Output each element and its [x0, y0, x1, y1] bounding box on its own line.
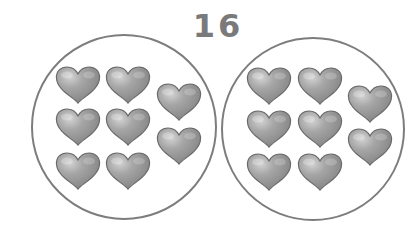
- heart-icon: [157, 128, 200, 164]
- heart-icon: [298, 154, 341, 190]
- heart-icon: [247, 154, 290, 190]
- heart-icon: [56, 67, 99, 103]
- grouping-diagram: [0, 0, 416, 236]
- heart-icon: [298, 68, 341, 104]
- right-group: [222, 38, 404, 220]
- heart-icon: [106, 109, 149, 145]
- heart-icon: [157, 84, 200, 120]
- heart-icon: [106, 67, 149, 103]
- heart-icon: [247, 68, 290, 104]
- heart-icon: [56, 109, 99, 145]
- heart-icon: [348, 86, 391, 122]
- heart-icon: [298, 111, 341, 147]
- left-group: [32, 35, 216, 219]
- heart-icon: [56, 153, 99, 189]
- heart-icon: [247, 111, 290, 147]
- heart-icon: [106, 153, 149, 189]
- heart-icon: [348, 129, 391, 165]
